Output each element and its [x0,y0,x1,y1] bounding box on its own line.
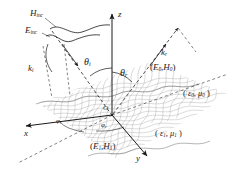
h-inc-leader [45,18,56,27]
origin-label: O [103,105,108,112]
k-reflected-sub: r [165,51,167,57]
phi-reflected-sub: r [105,124,107,129]
k-incident-sub: i [32,67,33,73]
upper-medium-mu-sub: 0 [202,92,204,98]
reflected-trace-extend [178,28,196,52]
phi-reflected-label: φr [101,122,106,129]
axis-label-x: x [24,129,28,138]
k-incident-arrow [62,44,78,66]
upper-medium-comma: , [194,88,196,98]
theta-reflected-sub: r [125,72,127,78]
h-incident-label: Hinc [30,9,43,19]
lower-medium-open: ( [155,128,158,138]
theta-incident-sub: i [89,61,91,67]
theta-i-arc [90,68,112,76]
theta-incident-label: θi [84,57,90,67]
axis-label-y: y [136,154,140,163]
incident-ray [52,31,111,114]
phi-incident-sub: i [60,120,61,125]
origin-dot [111,114,113,116]
x-axis [26,115,112,126]
k-inc-bracket [46,44,52,72]
k-reflected-label: kr [161,48,167,58]
reflected-field-pair-label: (E0,H0) [150,63,175,73]
phi-incident-label: φi [56,118,61,125]
h-inc-wave [50,25,110,33]
axis-label-z: z [118,10,122,19]
e-inc-wave [46,35,100,42]
transmitted-field-pair-label: (E1,H1) [90,142,115,152]
lower-medium-close: ) [179,128,182,138]
lower-medium-comma: , [166,128,168,138]
upper-medium-close: ) [207,88,210,98]
upper-medium-open: ( [183,88,186,98]
figure-canvas: z x y Hinc Einc ki kr θi θr φi φr O (E0,… [0,0,235,173]
plane-trace-right [112,74,228,115]
dashed-drop-mid [64,44,70,96]
reflected-pair-close: ) [172,62,175,72]
phi-i-arc [60,122,84,132]
e-incident-label: Einc [25,26,37,36]
theta-reflected-label: θr [120,68,127,78]
lower-medium-label: ( ε1, μ1 ) [155,129,182,138]
transmitted-pair-close: ) [112,141,115,151]
dashed-drop-left [43,46,52,98]
upper-medium-label: ( ε0, μ0 ) [183,89,210,98]
h-incident-sub: inc [37,12,43,18]
e-incident-sub: inc [31,29,37,35]
lower-medium-mu-sub: 1 [174,132,176,138]
y-axis [112,115,147,156]
plane-trace-left [18,115,112,163]
k-incident-label: ki [28,64,33,74]
